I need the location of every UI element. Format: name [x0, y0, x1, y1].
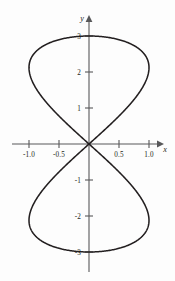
figure-container: -1.0 -0.5 0.5 1.0 3 2 1 -1 -2 -3 x y — [0, 0, 175, 281]
x-tick-label: -0.5 — [53, 151, 65, 159]
y-tick-label: -1 — [75, 177, 81, 185]
y-tick-label: 2 — [77, 69, 81, 77]
x-tick-label: 0.5 — [114, 151, 124, 159]
y-axis-label: y — [79, 14, 84, 23]
x-tick-label: -1.0 — [23, 151, 35, 159]
y-tick-label: 1 — [77, 105, 81, 113]
y-tick-label: -3 — [75, 249, 81, 257]
x-tick-label: 1.0 — [144, 151, 154, 159]
x-axis-label: x — [162, 145, 167, 154]
y-axis-arrow-icon — [86, 15, 93, 22]
y-tick-label: -2 — [75, 213, 81, 221]
plot-canvas: -1.0 -0.5 0.5 1.0 3 2 1 -1 -2 -3 x y — [0, 0, 175, 281]
